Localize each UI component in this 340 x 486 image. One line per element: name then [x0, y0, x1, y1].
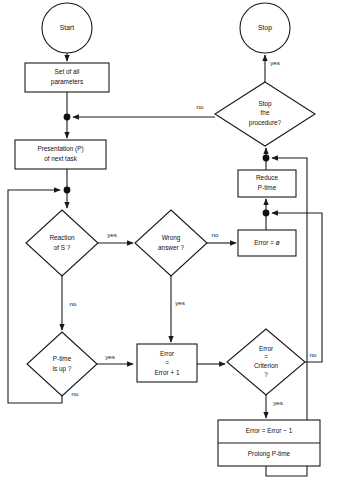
stop-label: Stop	[258, 24, 272, 32]
node-reduce-ptime[interactable]: Reduce P-time	[238, 170, 296, 197]
node-start[interactable]: Start	[42, 3, 92, 53]
wrong-answer-label-line2: answer ?	[158, 244, 184, 251]
set-parameters-label-line1: Set of all	[55, 68, 80, 75]
nodes: Start Stop Set of all parameters Present…	[15, 3, 320, 466]
edge-label-stop-yes: yes	[270, 59, 280, 66]
edge-label-reaction-yes: yes	[107, 231, 117, 238]
node-stop-procedure[interactable]: Stop the procedure?	[215, 82, 315, 146]
junction-above-reduce-dot	[263, 155, 270, 162]
node-ptime-is-up[interactable]: P-time is up ?	[27, 332, 97, 396]
reaction-of-s-label-line1: Reaction	[49, 234, 75, 241]
error-criterion-label-line4: ?	[264, 371, 268, 378]
error-zero-label: Error = ø	[254, 239, 279, 246]
reduce-ptime-label-line1: Reduce	[256, 174, 278, 181]
node-error-increment[interactable]: Error = Error + 1	[137, 344, 197, 382]
error-criterion-label-line1: Error	[259, 345, 274, 352]
wrong-answer-label-line1: Wrong	[162, 234, 181, 242]
node-stop[interactable]: Stop	[240, 3, 290, 53]
edge-label-criterion-no: no	[310, 351, 317, 358]
junction-after-params-dot	[64, 114, 71, 121]
stop-procedure-label-line3: procedure?	[249, 119, 282, 127]
edge-label-wrong-no: no	[212, 231, 219, 238]
flowchart-canvas: Start Stop Set of all parameters Present…	[0, 0, 340, 486]
edge-label-criterion-yes: yes	[273, 399, 283, 406]
node-wrong-answer[interactable]: Wrong answer ?	[135, 210, 207, 276]
ptime-is-up-label-line1: P-time	[53, 355, 72, 362]
presentation-label-line1: Presentation (P)	[37, 145, 83, 153]
error-decrement-label: Error = Error − 1	[246, 427, 293, 434]
stop-procedure-label-line2: the	[261, 109, 270, 116]
junction-above-error-zero-dot	[263, 210, 270, 217]
reaction-of-s-diamond	[26, 210, 98, 276]
flowchart-page: Start Stop Set of all parameters Present…	[0, 0, 340, 486]
reduce-ptime-label-line2: P-time	[258, 184, 277, 191]
node-error-criterion[interactable]: Error = Criterion ?	[227, 329, 305, 395]
junction-after-presentation-dot	[64, 187, 71, 194]
error-increment-label-line1: Error	[160, 350, 175, 357]
node-error-zero[interactable]: Error = ø	[238, 230, 296, 256]
node-presentation[interactable]: Presentation (P) of next task	[15, 140, 106, 169]
error-criterion-label-line2: =	[264, 353, 268, 360]
ptime-is-up-diamond	[27, 332, 97, 396]
set-parameters-label-line2: parameters	[51, 78, 83, 86]
prolong-ptime-label: Prolong P-time	[248, 450, 291, 458]
presentation-label-line2: of next task	[44, 155, 77, 162]
start-label: Start	[60, 24, 74, 31]
error-increment-label-line2: =	[165, 359, 169, 366]
error-increment-label-line3: Error + 1	[154, 369, 179, 376]
ptime-is-up-label-line2: is up ?	[53, 365, 72, 373]
edge-label-wrong-yes: yes	[175, 299, 185, 306]
wrong-answer-diamond	[135, 210, 207, 276]
error-criterion-label-line3: Criterion	[254, 362, 279, 369]
stop-procedure-label-line1: Stop	[258, 100, 272, 108]
edge-label-reaction-no: no	[70, 300, 77, 307]
node-set-parameters[interactable]: Set of all parameters	[25, 63, 109, 92]
edge-label-stop-no: no	[197, 103, 204, 110]
edge-label-ptime-yes: yes	[105, 353, 115, 360]
reaction-of-s-label-line2: of S ?	[54, 244, 71, 251]
node-reaction-of-s[interactable]: Reaction of S ?	[26, 210, 98, 276]
node-error-decrement-prolong[interactable]: Error = Error − 1 Prolong P-time	[218, 420, 320, 466]
edge-label-ptime-no: no	[72, 390, 79, 397]
